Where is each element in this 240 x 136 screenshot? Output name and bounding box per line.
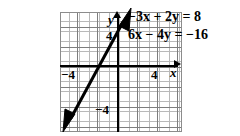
equation-second: 6x − 4y = −16	[128, 26, 240, 44]
x-axis-tick-label-positive-4: 4	[151, 68, 158, 81]
x-axis-tick-label-negative-4: −4	[61, 68, 75, 81]
x-axis-name-label: x	[170, 66, 177, 79]
y-axis	[117, 16, 119, 132]
equation-first-text: −3x + 2y = 8	[128, 9, 201, 24]
y-axis-tick-label-positive-4: 4	[106, 29, 113, 42]
equation-first: −3x + 2y = 8	[128, 8, 240, 26]
equation-callouts: −3x + 2y = 8 6x − 4y = −16	[128, 8, 240, 44]
x-axis	[60, 65, 178, 67]
y-axis-tick-label-negative-4: −4	[95, 103, 109, 116]
y-axis-arrow-icon	[113, 11, 121, 18]
y-axis-name-label: y	[108, 13, 114, 26]
coordinate-graph-figure: −4 4 4 −4 x y −3x + 2y = 8 6x − 4y = −16	[0, 0, 240, 136]
equation-second-text: 6x − 4y = −16	[128, 27, 208, 42]
